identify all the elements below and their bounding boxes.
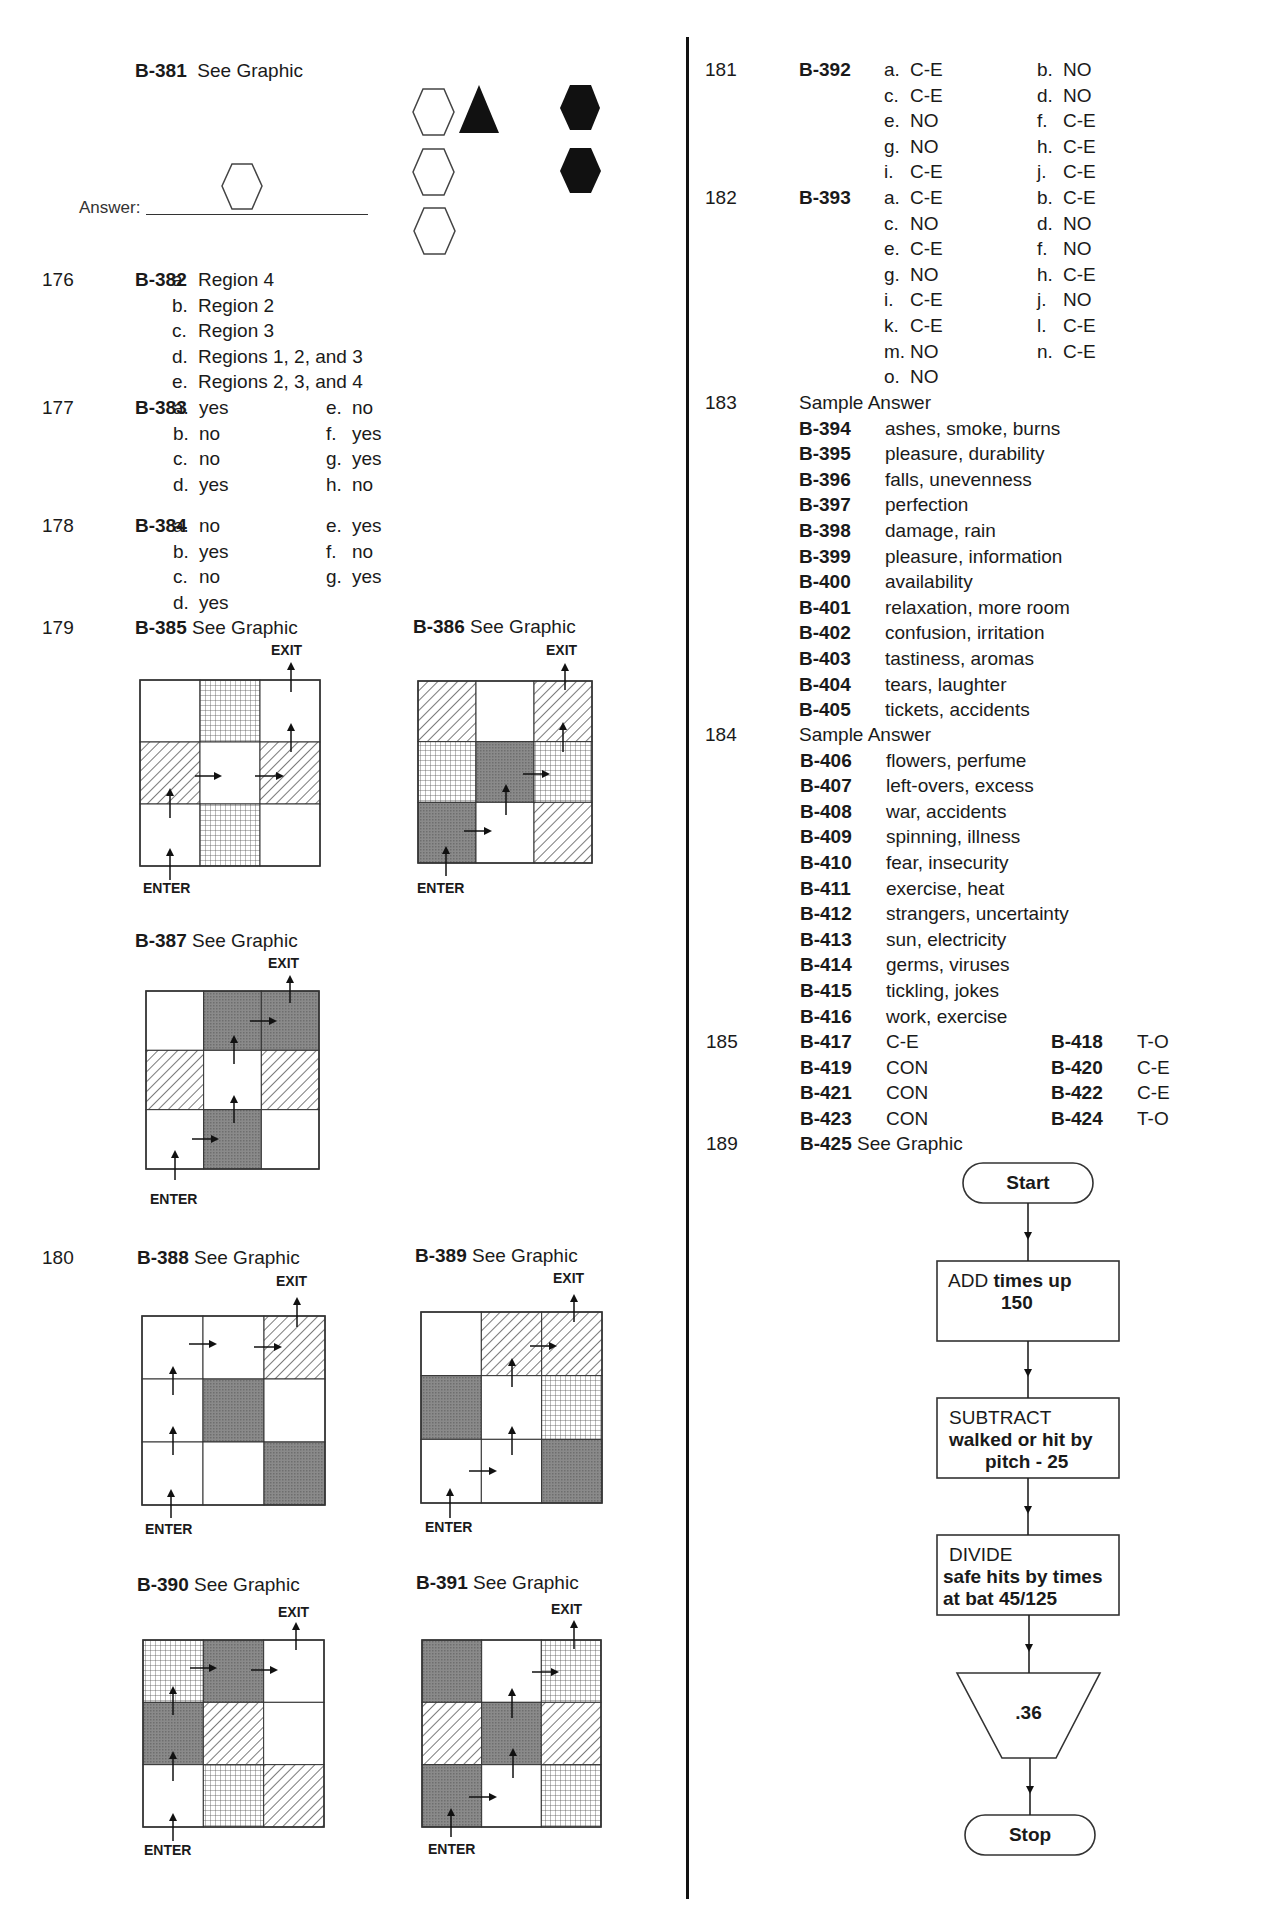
flowchart: [0, 0, 1265, 1920]
add-step: ADD times up 150: [948, 1270, 1072, 1314]
divide-step: DIVIDE safe hits by times at bat 45/125: [943, 1544, 1102, 1610]
stop-label: Stop: [965, 1824, 1095, 1846]
start-label: Start: [963, 1172, 1093, 1194]
output-value: .36: [957, 1702, 1100, 1724]
subtract-step: SUBTRACT walked or hit by pitch - 25: [949, 1407, 1093, 1473]
